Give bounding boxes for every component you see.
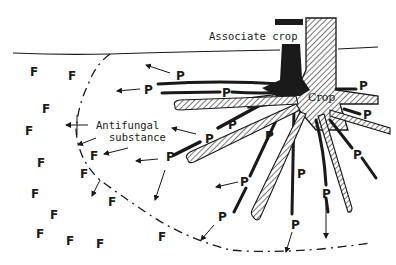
- f-marker: F: [36, 227, 44, 241]
- p-marker: P: [222, 86, 231, 100]
- f-marker: F: [31, 187, 39, 201]
- associate-crop-top: [275, 19, 303, 25]
- p-marker: P: [353, 148, 362, 162]
- p-marker: P: [218, 210, 227, 224]
- antifungal-label-line1: Antifungal: [96, 119, 159, 131]
- associate-crop-label: Associate crop: [209, 30, 298, 42]
- p-marker: P: [205, 132, 214, 146]
- crop-label: Crop: [308, 91, 335, 104]
- f-marker: F: [108, 195, 116, 209]
- p-marker: P: [228, 118, 237, 132]
- f-marker: F: [90, 149, 98, 163]
- p-marker: P: [363, 108, 372, 122]
- p-marker: P: [359, 79, 368, 93]
- f-marker: F: [68, 69, 76, 83]
- p-marker: P: [144, 83, 153, 97]
- f-marker: F: [30, 65, 38, 79]
- f-marker: F: [80, 167, 88, 181]
- f-marker: F: [42, 102, 50, 116]
- p-marker: P: [240, 175, 249, 189]
- f-marker: F: [158, 230, 166, 244]
- p-marker: P: [176, 69, 185, 83]
- root-interaction-diagram: Associate crop Crop Antifungal substance…: [0, 0, 396, 265]
- f-marker: F: [50, 208, 58, 222]
- soil-surface-line-right: [338, 47, 378, 49]
- p-marker: P: [291, 218, 300, 232]
- p-marker: P: [166, 150, 175, 164]
- f-marker: F: [96, 237, 104, 251]
- antifungal-label-line2: substance: [109, 131, 166, 143]
- f-marker: F: [66, 234, 74, 248]
- soil-surface-line: [13, 50, 280, 54]
- associate-crop-stem: [262, 44, 310, 96]
- p-marker: P: [322, 187, 331, 201]
- p-marker: P: [265, 129, 274, 143]
- p-marker: P: [297, 167, 306, 181]
- f-marker: F: [25, 124, 33, 138]
- f-marker: F: [37, 156, 45, 170]
